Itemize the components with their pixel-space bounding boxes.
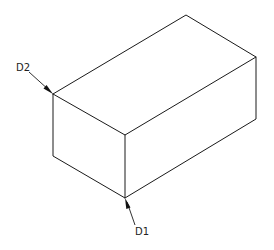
top-face <box>53 15 256 135</box>
front-right-face <box>125 57 256 198</box>
d1-label: D1 <box>135 227 149 237</box>
d1-arrowhead-icon <box>125 198 131 209</box>
d2-label: D2 <box>16 63 30 73</box>
front-left-face <box>53 94 125 198</box>
isometric-box-diagram <box>0 0 274 250</box>
